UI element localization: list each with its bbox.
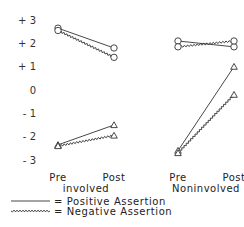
y-tick-label: - 1 xyxy=(23,108,36,119)
panel-involved xyxy=(55,25,118,149)
circle-marker xyxy=(111,45,117,51)
panel-label: involved xyxy=(63,183,109,194)
negative-assertion-line xyxy=(178,95,234,153)
x-category-label: Pre xyxy=(49,172,66,183)
negative-assertion-line xyxy=(58,135,114,146)
negative-assertion-line xyxy=(58,31,114,58)
triangle-marker xyxy=(231,63,238,69)
x-category-label: Post xyxy=(103,172,126,183)
circle-marker xyxy=(175,44,181,50)
triangle-marker xyxy=(111,122,118,128)
circle-marker xyxy=(231,38,237,44)
legend-wavy-line-icon xyxy=(11,210,50,212)
y-tick-label: + 3 xyxy=(18,15,36,26)
positive-assertion-line xyxy=(178,67,234,151)
y-tick-label: - 3 xyxy=(23,155,36,166)
negative-assertion-line xyxy=(178,40,234,47)
circle-marker xyxy=(55,27,61,33)
legend-label: = Negative Assertion xyxy=(54,206,172,217)
x-category-label: Post xyxy=(223,172,244,183)
triangle-marker xyxy=(111,132,118,138)
x-axis-labels: PrePostinvolvedPrePostNoninvolved xyxy=(49,172,244,194)
panel-label: Noninvolved xyxy=(172,183,240,194)
circle-marker xyxy=(111,54,117,60)
legend: = Positive Assertion= Negative Assertion xyxy=(11,196,172,217)
x-category-label: Pre xyxy=(169,172,186,183)
panel-noninvolved xyxy=(175,38,238,156)
positive-assertion-line xyxy=(58,28,114,48)
y-axis-tick-labels: + 3+ 2+ 10- 1- 2- 3 xyxy=(18,15,36,166)
triangle-marker xyxy=(231,91,238,97)
y-tick-label: 0 xyxy=(30,85,36,96)
y-tick-label: + 1 xyxy=(18,61,36,72)
plot-area xyxy=(55,25,238,156)
interaction-line-chart: + 3+ 2+ 10- 1- 2- 3 PrePostinvolvedPrePo… xyxy=(0,0,244,227)
y-tick-label: + 2 xyxy=(18,38,36,49)
positive-assertion-line xyxy=(58,125,114,145)
y-tick-label: - 2 xyxy=(23,131,36,142)
